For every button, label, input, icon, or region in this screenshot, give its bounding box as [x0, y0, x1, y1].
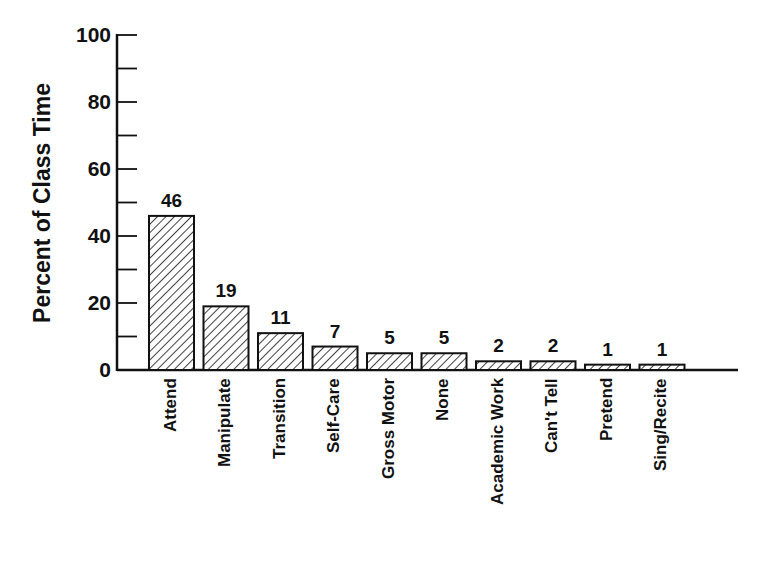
bar-value-label: 11	[256, 307, 306, 329]
plot-area	[0, 0, 768, 569]
bar-value-label: 19	[201, 280, 251, 302]
bar-value-label: 5	[419, 327, 469, 349]
x-category-label: Attend	[161, 378, 181, 432]
bar	[531, 361, 576, 370]
y-tick-label: 20	[51, 291, 111, 315]
bar	[204, 306, 249, 370]
bar	[149, 216, 194, 370]
y-tick-label: 100	[51, 23, 111, 47]
bar	[640, 365, 685, 370]
y-tick-label: 60	[51, 157, 111, 181]
bar	[367, 353, 412, 370]
x-category-label: None	[433, 379, 453, 422]
x-category-label: Transition	[270, 378, 290, 459]
bar	[422, 353, 467, 370]
bar-value-label: 7	[310, 321, 360, 343]
x-category-label: Manipulate	[215, 378, 235, 467]
bar-value-label: 2	[528, 335, 578, 357]
y-axis-label: Percent of Class Time	[29, 83, 56, 323]
y-tick-label: 0	[51, 358, 111, 382]
bar	[313, 347, 358, 370]
x-category-label: Gross Motor	[379, 378, 399, 479]
bar	[258, 333, 303, 370]
x-category-label: Academic Work	[488, 378, 508, 505]
y-tick-label: 80	[51, 90, 111, 114]
x-category-label: Sing/Recite	[651, 378, 671, 471]
y-tick-label: 40	[51, 224, 111, 248]
bar-value-label: 1	[637, 339, 687, 361]
bar-value-label: 5	[365, 327, 415, 349]
bar	[585, 365, 630, 370]
bar	[476, 361, 521, 370]
bar-chart: Percent of Class Time 0 20 40 60 80 100 …	[0, 0, 768, 569]
bar-value-label: 2	[474, 335, 524, 357]
x-category-label: Can't Tell	[542, 378, 562, 453]
x-category-label: Pretend	[597, 378, 617, 441]
x-category-label: Self-Care	[324, 378, 344, 453]
bar-value-label: 1	[583, 339, 633, 361]
bar-value-label: 46	[147, 190, 197, 212]
